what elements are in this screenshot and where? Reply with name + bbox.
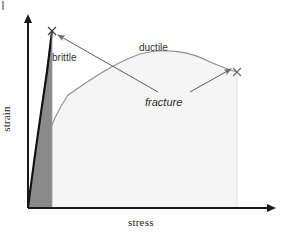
fracture-label: fracture [145,96,182,108]
plot-canvas [0,0,286,238]
brittle-label: brittle [52,52,76,63]
x-axis-title: stress [128,216,154,228]
stress-strain-figure: brittle ductile fracture stress strain [0,0,286,238]
ductile-fill-region [28,51,237,208]
ductile-label: ductile [139,42,168,53]
y-axis-title: strain [0,106,12,132]
